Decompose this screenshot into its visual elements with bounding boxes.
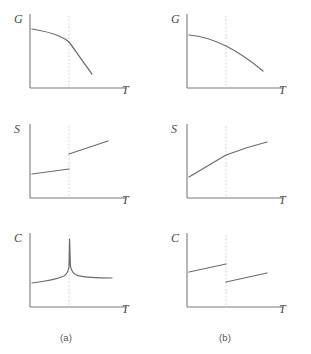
panel-a-G: G T [0, 0, 156, 105]
y-axis-label: S [14, 123, 20, 135]
curve-a-S-low [32, 169, 69, 174]
y-axis-label: G [14, 13, 23, 25]
panel-a-C: C T [0, 219, 156, 324]
panel-b-C: C T [157, 219, 311, 324]
plot-b-S [157, 110, 311, 215]
x-axis-label: T [279, 303, 286, 315]
curve-b-C-high [226, 273, 267, 282]
column-label-a: (a) [60, 332, 72, 343]
y-axis-label: G [171, 13, 180, 25]
curve-a-C-spike [32, 239, 112, 283]
curve-a-G [32, 29, 92, 74]
y-axis-label: C [171, 232, 179, 244]
phase-transition-figure: G T S T C T G T [0, 0, 311, 354]
plot-b-C [157, 219, 311, 324]
x-axis-label: T [122, 84, 129, 96]
panel-b-S: S T [157, 110, 311, 215]
plot-a-G [0, 0, 156, 105]
y-axis-label: C [14, 232, 22, 244]
x-axis-label: T [279, 194, 286, 206]
curve-b-S [189, 142, 267, 177]
y-axis-label: S [171, 123, 177, 135]
plot-b-G [157, 0, 311, 105]
x-axis-label: T [122, 194, 129, 206]
curve-a-S-high [69, 141, 108, 154]
plot-a-S [0, 110, 156, 215]
x-axis-label: T [122, 303, 129, 315]
plot-a-C [0, 219, 156, 324]
panel-a-S: S T [0, 110, 156, 215]
column-label-b: (b) [219, 332, 231, 343]
curve-b-C-low [189, 264, 226, 272]
x-axis-label: T [279, 84, 286, 96]
panel-b-G: G T [157, 0, 311, 105]
